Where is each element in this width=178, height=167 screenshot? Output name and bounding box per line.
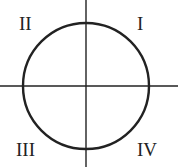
quadrant-label-4: IV: [137, 140, 157, 159]
quadrant-label-3: III: [16, 140, 35, 159]
quadrant-diagram: I II III IV: [0, 0, 178, 167]
quadrant-label-2: II: [19, 14, 32, 33]
quadrant-label-1: I: [137, 14, 143, 33]
